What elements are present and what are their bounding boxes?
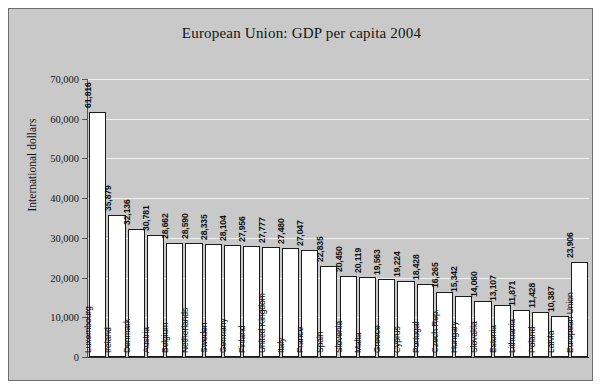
bar-value-label: 18,428 xyxy=(411,254,421,280)
bar-category-label: Estonia xyxy=(488,325,498,353)
y-axis-tick-label: 70,000 xyxy=(50,74,79,85)
bar-value-label: 15,342 xyxy=(449,266,459,292)
bar-category-label: Malta xyxy=(353,332,363,353)
bar-slot[interactable]: Estonia13,107 xyxy=(493,79,512,357)
bar-value-label: 28,335 xyxy=(199,215,209,241)
chart-figure: European Union: GDP per capita 2004 Inte… xyxy=(0,0,601,389)
bar-slot[interactable]: Hungary15,342 xyxy=(454,79,473,357)
bar-category-label: Netherlands xyxy=(180,308,190,353)
bar-value-label: 27,956 xyxy=(237,216,247,242)
y-axis-tick-label: 10,000 xyxy=(50,312,79,323)
bar-category-label: Slovakia xyxy=(469,321,479,353)
bar-slot[interactable]: Spain22,835 xyxy=(319,79,338,357)
y-axis-tick-label: 50,000 xyxy=(50,153,79,164)
bar-category-label: Hungary xyxy=(449,321,459,353)
bar-category-label: Greece xyxy=(372,325,382,353)
bar-value-label: 27,047 xyxy=(295,220,305,246)
bar-value-label: 27,480 xyxy=(276,218,286,244)
bar-slot[interactable]: Italy27,480 xyxy=(281,79,300,357)
bar-slot[interactable]: Greece19,563 xyxy=(377,79,396,357)
bar-category-label: Spain xyxy=(315,332,325,353)
y-axis-tick-label: 20,000 xyxy=(50,272,79,283)
bar-category-label: France xyxy=(295,327,305,353)
chart-plate: European Union: GDP per capita 2004 Inte… xyxy=(8,8,593,381)
bar-value-label: 30,781 xyxy=(141,205,151,231)
bar-value-label: 10,387 xyxy=(546,286,556,312)
bar-slot[interactable]: Lithuania11,871 xyxy=(512,79,531,357)
bar-series: Luxembourg61,816Ireland35,879Denmark32,1… xyxy=(88,79,589,357)
bar-value-label: 13,107 xyxy=(488,275,498,301)
bar-value-label: 20,119 xyxy=(353,248,363,273)
bar-category-label: Portugal xyxy=(411,322,421,353)
y-axis-tick-label: 0 xyxy=(74,352,79,363)
bar-value-label: 20,450 xyxy=(334,246,344,272)
bar-value-label: 19,224 xyxy=(392,251,402,277)
bar-category-label: Italy xyxy=(276,338,286,353)
y-axis-label: International dollars xyxy=(26,90,38,240)
bar-slot[interactable]: Slovenia20,450 xyxy=(339,79,358,357)
bar-category-label: Latvia xyxy=(546,331,556,353)
bar-slot[interactable]: France27,047 xyxy=(300,79,319,357)
bar-value-label: 27,777 xyxy=(257,217,267,243)
bar-value-label: 23,906 xyxy=(565,232,575,258)
bar-category-label: European Union xyxy=(565,292,575,353)
bar-value-label: 16,265 xyxy=(430,263,440,289)
bar-category-label: Denmark xyxy=(122,319,132,353)
plot-area: 70,00060,00050,00040,00030,00020,00010,0… xyxy=(87,79,589,358)
bar-value-label: 35,879 xyxy=(103,185,113,211)
bar-value-label: 61,816 xyxy=(83,82,93,108)
bar-value-label: 28,104 xyxy=(218,216,228,242)
bar-category-label: Luxembourg xyxy=(83,306,93,353)
bar-slot[interactable]: Cyprus19,224 xyxy=(396,79,415,357)
bar-value-label: 11,871 xyxy=(507,281,517,306)
bar-slot[interactable]: European Union23,906 xyxy=(570,79,589,357)
bar-category-label: Austria xyxy=(141,327,151,353)
chart-title: European Union: GDP per capita 2004 xyxy=(9,25,594,42)
bar-category-label: Ireland xyxy=(103,327,113,353)
bar-slot[interactable]: Poland11,428 xyxy=(531,79,550,357)
bar-value-label: 14,060 xyxy=(469,271,479,297)
bar-category-label: Slovenia xyxy=(334,321,344,353)
bar-value-label: 28,662 xyxy=(160,213,170,239)
bar-category-label: Czech Rep. xyxy=(430,309,440,353)
bar-value-label: 32,136 xyxy=(122,200,132,226)
bar-value-label: 19,563 xyxy=(372,250,382,276)
bar-category-label: Sweden xyxy=(199,323,209,353)
bar-category-label: Belgium xyxy=(160,323,170,353)
bar-category-label: Poland xyxy=(527,327,537,353)
bar-category-label: Lithuania xyxy=(507,319,517,353)
bar-value-label: 22,835 xyxy=(315,237,325,263)
bar-slot[interactable]: Luxembourg61,816 xyxy=(88,79,107,357)
bar-slot[interactable]: Czech Rep.16,265 xyxy=(435,79,454,357)
bar-category-label: Cyprus xyxy=(392,326,402,353)
bar-category-label: Germany xyxy=(218,318,228,353)
bar-category-label: Finland xyxy=(237,326,247,354)
bar-slot[interactable]: Slovakia14,060 xyxy=(473,79,492,357)
bar-category-label: United Kingdom xyxy=(257,293,267,353)
y-axis-tick-label: 30,000 xyxy=(50,232,79,243)
y-axis-tick xyxy=(82,357,88,358)
bar-slot[interactable]: Malta20,119 xyxy=(358,79,377,357)
y-axis-tick-label: 60,000 xyxy=(50,113,79,124)
bar-value-label: 28,590 xyxy=(180,214,190,240)
bar-value-label: 11,428 xyxy=(527,282,537,307)
y-axis-tick-label: 40,000 xyxy=(50,193,79,204)
